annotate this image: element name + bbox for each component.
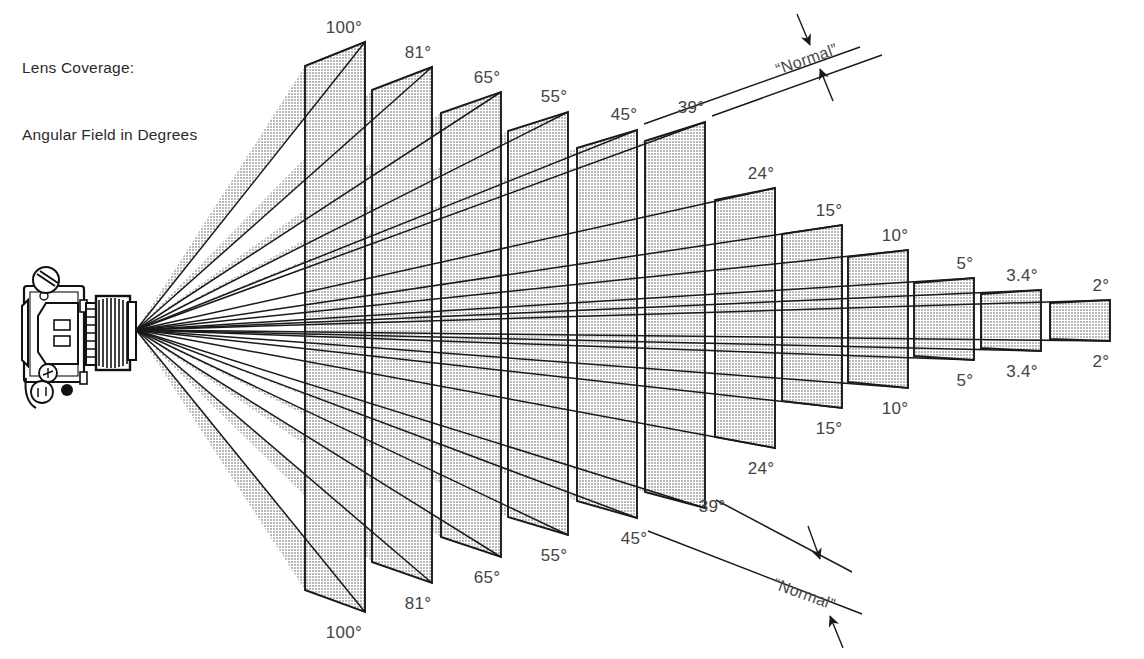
angle-label-bottom-9: 5° (957, 371, 974, 390)
angle-label-bottom-1: 81° (405, 594, 432, 613)
angle-label-bottom-7: 15° (816, 419, 843, 438)
angle-label-bottom-6: 24° (748, 459, 775, 478)
camera-illustration (22, 267, 136, 408)
angle-label-bottom-10: 3.4° (1006, 362, 1038, 381)
field-frame-3.4° (981, 290, 1041, 351)
field-frame-81° (372, 67, 432, 583)
angle-label-bottom-5: 39° (699, 497, 726, 516)
field-frame-24° (715, 188, 775, 448)
field-frame-39° (645, 122, 705, 508)
angle-label-bottom-2: 65° (474, 568, 501, 587)
angle-label-top-5: 39° (678, 98, 705, 117)
field-frame-2° (1050, 300, 1110, 341)
diagram-canvas: “Normal” “Normal” 100°81°65°55°45°39°24°… (0, 0, 1144, 659)
angle-label-bottom-8: 10° (882, 399, 909, 418)
angle-label-top-8: 10° (882, 226, 909, 245)
normal-label-bottom: “Normal” (771, 575, 838, 613)
angle-label-top-11: 2° (1093, 276, 1110, 295)
angle-label-top-9: 5° (957, 254, 974, 273)
angle-label-top-2: 65° (474, 68, 501, 87)
lens-coverage-diagram: Lens Coverage: Angular Field in Degrees (0, 0, 1144, 659)
angle-label-top-3: 55° (541, 87, 568, 106)
angle-label-top-1: 81° (405, 43, 432, 62)
normal-label-top: “Normal” (773, 40, 840, 78)
angle-label-top-10: 3.4° (1006, 266, 1038, 285)
angle-label-bottom-4: 45° (621, 529, 648, 548)
field-frames (305, 42, 1110, 612)
angle-label-bottom-0: 100° (326, 623, 362, 642)
field-frame-100° (305, 42, 365, 612)
angle-label-bottom-11: 2° (1093, 352, 1110, 371)
angle-label-top-0: 100° (326, 18, 362, 37)
angle-label-top-6: 24° (748, 164, 775, 183)
angle-label-top-7: 15° (816, 201, 843, 220)
field-frame-45° (577, 130, 637, 518)
normal-bracket-bottom: “Normal” (648, 500, 862, 648)
angle-label-bottom-3: 55° (541, 546, 568, 565)
field-frame-10° (848, 250, 908, 388)
angle-label-top-4: 45° (611, 105, 638, 124)
